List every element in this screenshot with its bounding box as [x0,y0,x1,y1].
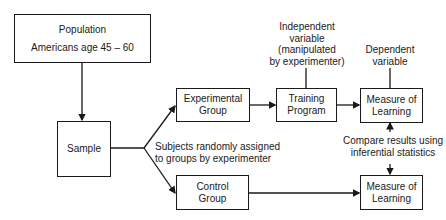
compare-results-annotation: Compare results using inferential statis… [340,135,446,158]
random-assignment-annotation: Subjects randomly assigned to groups by … [155,141,295,164]
independent-line2: variable [262,33,352,45]
experimental-group-line1: Experimental [184,93,242,105]
compare-line2: inferential statistics [340,147,446,159]
measure-bottom-line2: Learning [372,193,411,205]
research-design-diagram: Population Americans age 45 – 60 Sample … [0,0,446,220]
random-assign-line1: Subjects randomly assigned [155,141,295,153]
control-group-line1: Control [196,181,228,193]
measure-of-learning-bottom-box: Measure of Learning [360,175,423,210]
training-program-box: Training Program [276,88,337,122]
population-box: Population Americans age 45 – 60 [14,14,151,63]
control-group-line2: Group [199,193,227,205]
training-program-line1: Training [289,93,325,105]
control-group-box: Control Group [176,175,249,210]
independent-line4: by experimenter) [262,56,352,68]
dependent-variable-annotation: Dependent variable [355,44,425,67]
dependent-line1: Dependent [355,44,425,56]
training-program-line2: Program [287,105,325,117]
independent-line3: (manipulated [262,44,352,56]
measure-top-line2: Learning [372,106,411,118]
population-subtitle: Americans age 45 – 60 [31,42,134,54]
experimental-group-line2: Group [199,105,227,117]
measure-bottom-line1: Measure of [366,181,416,193]
measure-top-line1: Measure of [366,94,416,106]
population-title: Population [59,24,106,36]
independent-line1: Independent [262,21,352,33]
sample-label: Sample [67,143,101,155]
random-assign-line2: to groups by experimenter [155,153,295,165]
measure-of-learning-top-box: Measure of Learning [360,88,423,123]
compare-line1: Compare results using [340,135,446,147]
independent-variable-annotation: Independent variable (manipulated by exp… [262,21,352,67]
sample-box: Sample [57,121,111,177]
dependent-line2: variable [355,56,425,68]
experimental-group-box: Experimental Group [176,88,250,122]
